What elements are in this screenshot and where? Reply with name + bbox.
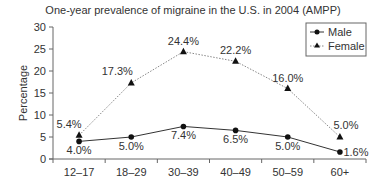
legend-male-label: Male	[328, 26, 352, 38]
male-marker-circle	[128, 134, 134, 140]
x-tick-label: 12–17	[64, 166, 95, 178]
female-data-label: 17.3%	[102, 65, 133, 77]
x-tick-label: 60+	[331, 166, 350, 178]
female-data-label: 16.0%	[272, 72, 303, 84]
y-tick-label: 25	[34, 43, 46, 55]
male-data-label: 7.4%	[171, 129, 196, 141]
female-marker-triangle	[336, 133, 343, 140]
male-marker-circle	[181, 124, 187, 130]
female-data-label: 5.4%	[57, 118, 82, 130]
x-tick-label: 40–49	[220, 166, 251, 178]
legend-female-label: Female	[328, 40, 365, 52]
female-data-label: 5.0%	[333, 119, 358, 131]
female-marker-triangle	[128, 79, 135, 86]
male-marker-circle	[233, 128, 239, 134]
chart-canvas: One-year prevalence of migraine in the U…	[0, 0, 387, 186]
female-data-label: 24.4%	[168, 35, 199, 47]
x-tick-label: 18–29	[116, 166, 147, 178]
y-tick-label: 10	[34, 109, 46, 121]
chart-title: One-year prevalence of migraine in the U…	[45, 4, 340, 16]
y-axis-label: Percentage	[17, 65, 29, 121]
line-chart: One-year prevalence of migraine in the U…	[0, 0, 387, 186]
x-tick-label: 30–39	[168, 166, 199, 178]
x-tick-label: 50–59	[272, 166, 303, 178]
male-data-label: 6.5%	[223, 133, 248, 145]
male-data-label: 4.0%	[67, 144, 92, 156]
female-data-label: 22.2%	[220, 44, 251, 56]
legend-male-marker	[315, 30, 320, 35]
male-marker-circle	[76, 139, 82, 145]
y-tick-label: 30	[34, 21, 46, 33]
y-tick-label: 15	[34, 87, 46, 99]
male-marker-circle	[285, 134, 291, 140]
female-marker-triangle	[180, 48, 187, 55]
male-data-label: 5.0%	[119, 140, 144, 152]
y-tick-label: 5	[40, 131, 46, 143]
male-data-label: 1.6%	[343, 146, 368, 158]
y-tick-label: 20	[34, 65, 46, 77]
female-marker-triangle	[232, 57, 239, 64]
male-data-label: 5.0%	[275, 140, 300, 152]
y-tick-label: 0	[40, 153, 46, 165]
male-marker-circle	[337, 149, 343, 155]
